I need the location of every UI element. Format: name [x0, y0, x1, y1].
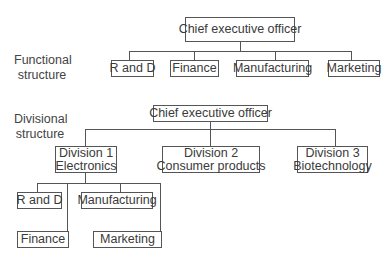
box-text: R and D: [17, 194, 63, 207]
division-2-box: Division 2 Consumer products: [162, 146, 260, 173]
division1-finance-box: Finance: [17, 231, 69, 248]
divisional-structure-label: Divisional structure: [14, 112, 66, 142]
division1-marketing-box: Marketing: [93, 231, 162, 248]
box-text: Consumer products: [156, 160, 265, 173]
division-3-box: Division 3 Biotechnology: [297, 146, 368, 173]
connector: [210, 129, 211, 146]
connector: [275, 51, 276, 60]
functional-finance-box: Finance: [170, 60, 219, 77]
division1-rand-d-box: R and D: [17, 192, 62, 209]
division1-manufacturing-box: Manufacturing: [81, 192, 153, 209]
box-text: Chief executive officer: [149, 107, 272, 120]
label-line: Functional: [14, 53, 70, 68]
connector: [351, 51, 352, 60]
connector: [37, 183, 38, 192]
functional-structure-label: Functional structure: [14, 53, 70, 83]
label-line: structure: [14, 68, 70, 83]
division-1-box: Division 1 Electronics: [55, 146, 117, 173]
box-text: Finance: [21, 233, 65, 246]
label-line: Divisional: [14, 112, 66, 127]
connector: [85, 129, 86, 146]
box-text: R and D: [110, 62, 156, 75]
box-text: Manufacturing: [233, 62, 312, 75]
connector: [129, 51, 130, 60]
box-text: Division 1: [59, 147, 113, 160]
connector: [37, 183, 161, 184]
box-text: Marketing: [327, 62, 382, 75]
functional-rand-d-box: R and D: [111, 60, 154, 77]
connector: [194, 51, 195, 60]
connector: [67, 183, 68, 231]
functional-marketing-box: Marketing: [328, 60, 380, 77]
divisional-ceo-box: Chief executive officer: [153, 105, 268, 122]
box-text: Finance: [172, 62, 216, 75]
box-text: Chief executive officer: [179, 23, 302, 36]
connector: [160, 183, 161, 231]
box-text: Biotechnology: [293, 160, 372, 173]
connector: [120, 183, 121, 192]
connector: [335, 129, 336, 146]
box-text: Manufacturing: [77, 194, 156, 207]
box-text: Division 3: [305, 147, 359, 160]
label-line: structure: [14, 127, 66, 142]
functional-manufacturing-box: Manufacturing: [236, 60, 309, 77]
functional-ceo-box: Chief executive officer: [185, 17, 295, 42]
box-text: Marketing: [100, 233, 155, 246]
box-text: Division 2: [184, 147, 238, 160]
connector: [129, 51, 352, 52]
box-text: Electronics: [55, 160, 116, 173]
